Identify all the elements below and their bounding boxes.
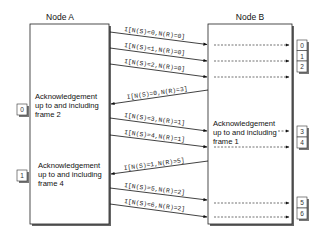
frame-number: 1: [20, 172, 24, 179]
messages-layer: I[N(S)=0,N(R)=0] I[N(S)=1,N(R)=0] I[N(S)…: [110, 26, 208, 217]
message-label: I[N(S)=1,N(R)=0]: [124, 42, 186, 57]
message-label: I[N(S)=1,N(R)=5]: [123, 157, 185, 172]
message-label: I[N(S)=6,N(R)=2]: [124, 198, 186, 213]
message-arrow: I[N(S)=1,N(R)=5]: [111, 157, 208, 174]
message-label: I[N(S)=2,N(R)=0]: [124, 58, 186, 73]
frame-number: 2: [300, 63, 304, 70]
node-b-title: Node B: [236, 12, 265, 22]
node-a: Node A: [30, 12, 111, 226]
frame-box: 0: [17, 104, 29, 117]
ack-line: frame 2: [35, 110, 61, 119]
frame-number: 1: [300, 53, 304, 60]
ack-line: Acknowledgement: [213, 119, 276, 128]
ack-line: frame 1: [213, 137, 239, 146]
sliding-window-diagram: Node A Node B Acknowledgement up to and …: [0, 0, 327, 243]
frame-number: 0: [20, 106, 24, 113]
node-b-frame-boxes: 0 1 2 3 4 5 6: [297, 40, 309, 221]
message-arrow: I[N(S)=2,N(R)=0]: [110, 58, 207, 77]
frame-number: 6: [300, 210, 304, 217]
frame-box: 3 4: [297, 126, 309, 150]
ack-line: up to and including: [38, 170, 102, 179]
message-arrow: I[N(S)=4,N(R)=1]: [110, 129, 207, 147]
frame-box: 0 1 2: [297, 40, 309, 74]
message-label: I[N(S)=0,N(R)=0]: [124, 26, 186, 41]
ack-line: Acknowledgement: [35, 92, 98, 101]
node-a-frame-boxes: 0 1: [17, 104, 29, 183]
frame-number: 0: [300, 42, 304, 49]
message-label: I[N(S)=4,N(R)=1]: [124, 129, 186, 144]
ack-line: frame 4: [38, 179, 64, 188]
message-arrow: I[N(S)=6,N(R)=2]: [110, 198, 207, 217]
frame-number: 5: [300, 199, 304, 206]
frame-number: 4: [300, 139, 304, 146]
ack-line: up to and including: [213, 128, 277, 137]
ack-line: up to and including: [35, 101, 99, 110]
ack-line: Acknowledgement: [38, 161, 101, 170]
message-label: I[N(S)=5,N(R)=2]: [124, 182, 186, 197]
frame-box: 5 6: [297, 197, 309, 221]
frame-number: 3: [300, 128, 304, 135]
frame-box: 1: [17, 170, 29, 183]
message-label: I[N(S)=3,N(R)=1]: [124, 112, 186, 127]
node-a-title: Node A: [46, 12, 74, 22]
message-label: I[N(S)=0,N(R)=3]: [126, 86, 188, 101]
node-a-box: [30, 24, 109, 224]
message-arrow: I[N(S)=0,N(R)=3]: [111, 86, 208, 104]
